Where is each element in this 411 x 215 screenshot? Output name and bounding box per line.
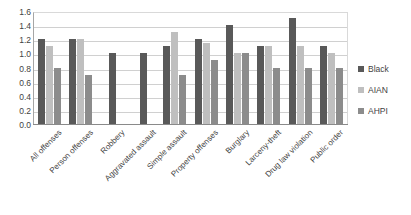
- bar: [69, 39, 76, 124]
- x-axis-label-cell: Public order: [316, 126, 347, 188]
- legend-item[interactable]: AIAN: [358, 79, 410, 100]
- bar: [163, 46, 170, 124]
- bar-group: [316, 12, 347, 124]
- bar-group: [253, 12, 284, 124]
- bar-group: [128, 12, 159, 124]
- y-axis-tick-label: 1.4: [3, 22, 31, 30]
- x-axis-line: [33, 124, 348, 125]
- bar-group: [159, 12, 190, 124]
- legend-item[interactable]: Black: [358, 58, 410, 79]
- bar: [109, 53, 116, 124]
- bar: [242, 53, 249, 124]
- bar: [140, 53, 147, 124]
- bar-groups: [34, 12, 347, 124]
- bar: [46, 46, 53, 124]
- bar: [305, 68, 312, 125]
- y-axis-tick-label: 0.0: [3, 121, 31, 129]
- legend-label: AHPI: [368, 106, 388, 116]
- bar: [226, 25, 233, 124]
- chart-legend: BlackAIANAHPI: [358, 58, 410, 121]
- y-axis-tick-label: 1.0: [3, 50, 31, 58]
- y-axis-tick-label: 0.2: [3, 107, 31, 115]
- bar: [320, 46, 327, 124]
- bar-group: [222, 12, 253, 124]
- legend-swatch: [358, 108, 364, 114]
- y-axis-tick-label: 0.4: [3, 93, 31, 101]
- bar: [179, 75, 186, 124]
- bar: [211, 60, 218, 124]
- bar: [171, 32, 178, 124]
- bar-group: [190, 12, 221, 124]
- y-axis-tick-label: 0.6: [3, 79, 31, 87]
- bar: [77, 39, 84, 124]
- y-axis-tick-label: 1.2: [3, 36, 31, 44]
- legend-label: AIAN: [368, 85, 388, 95]
- bar: [289, 18, 296, 124]
- y-axis-tick-label: 1.6: [3, 8, 31, 16]
- bar: [265, 46, 272, 124]
- bar: [257, 46, 264, 124]
- bar: [297, 46, 304, 124]
- bar: [336, 68, 343, 125]
- bar: [203, 43, 210, 124]
- bar-group: [34, 12, 65, 124]
- y-axis-tick-label: 0.8: [3, 65, 31, 73]
- bar: [38, 39, 45, 124]
- bar-group: [97, 12, 128, 124]
- bar-group: [65, 12, 96, 124]
- bar: [85, 75, 92, 124]
- x-axis-labels: All offensesPerson offensesRobberyAggrav…: [34, 126, 347, 188]
- x-axis-label-cell: Property offenses: [190, 126, 221, 188]
- bar: [234, 53, 241, 124]
- bar-group: [284, 12, 315, 124]
- legend-swatch: [358, 66, 364, 72]
- bar: [328, 53, 335, 124]
- bar-chart: 1.61.41.21.00.80.60.40.20.0 All offenses…: [0, 0, 411, 215]
- y-axis: 1.61.41.21.00.80.60.40.20.0: [0, 12, 31, 125]
- legend-swatch: [358, 87, 364, 93]
- legend-label: Black: [368, 64, 389, 74]
- x-axis-tick-label: Burglary: [224, 128, 251, 155]
- legend-item[interactable]: AHPI: [358, 100, 410, 121]
- bar: [273, 68, 280, 125]
- bar: [195, 39, 202, 124]
- x-axis-tick-label: Robbery: [99, 128, 127, 156]
- bar: [54, 68, 61, 125]
- x-axis-label-cell: Person offenses: [65, 126, 96, 188]
